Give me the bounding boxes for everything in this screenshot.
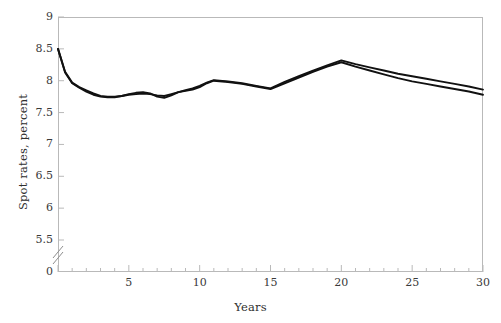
axis-break-mark <box>53 246 63 264</box>
spot-rate-curve-chart: 5.566.577.588.590 51015202530 Spot rates… <box>0 0 501 323</box>
data-line-series-1 <box>58 49 483 97</box>
data-series-group <box>58 49 483 98</box>
data-line-series-2 <box>58 49 483 98</box>
x-axis-ticks <box>58 265 483 272</box>
chart-svg <box>0 0 501 323</box>
